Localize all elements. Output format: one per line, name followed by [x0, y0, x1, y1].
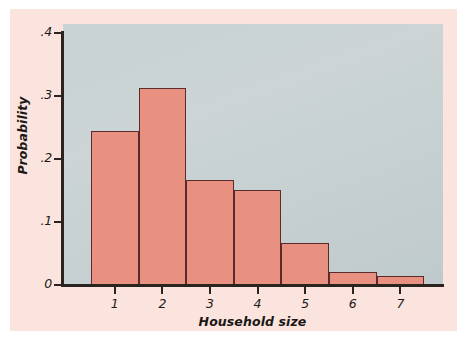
x-tick-label-3: 4 — [246, 296, 270, 311]
x-axis-title: Household size — [61, 314, 444, 329]
x-axis-line — [61, 284, 444, 287]
x-tick-label-6: 7 — [388, 296, 412, 311]
x-tick-3 — [257, 287, 259, 294]
x-tick-label-2: 3 — [198, 296, 222, 311]
x-tick-label-4: 5 — [293, 296, 317, 311]
y-tick-label-0: 0 — [30, 276, 52, 291]
bar-4 — [234, 190, 282, 285]
y-axis-title: Probability — [15, 86, 30, 186]
x-tick-label-5: 6 — [341, 296, 365, 311]
x-tick-label-0: 1 — [103, 296, 127, 311]
x-tick-4 — [304, 287, 306, 294]
x-tick-0 — [114, 287, 116, 294]
bar-5 — [281, 243, 329, 285]
bar-2 — [139, 88, 187, 285]
bar-3 — [186, 180, 234, 285]
x-tick-2 — [209, 287, 211, 294]
x-tick-6 — [399, 287, 401, 294]
y-axis-line — [61, 31, 64, 287]
y-tick-label-3: .3 — [30, 87, 52, 102]
x-tick-5 — [352, 287, 354, 294]
figure-container: 0.1.2.3.41234567 Probability Household s… — [0, 0, 474, 347]
x-tick-label-1: 2 — [150, 296, 174, 311]
bar-1 — [91, 131, 139, 285]
y-tick-label-4: .4 — [30, 24, 52, 39]
y-tick-label-1: .1 — [30, 213, 52, 228]
x-tick-1 — [161, 287, 163, 294]
y-tick-label-2: .2 — [30, 150, 52, 165]
bar-6 — [329, 272, 377, 285]
